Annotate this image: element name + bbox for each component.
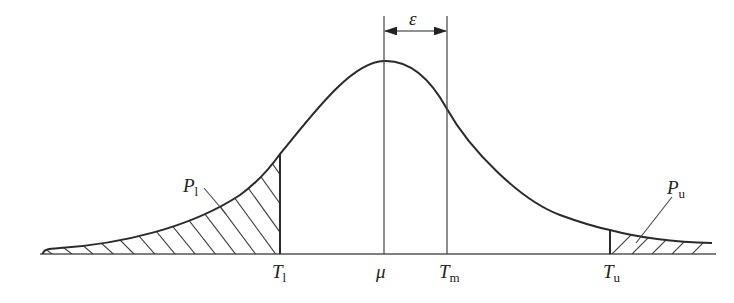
density-curve: [43, 61, 712, 254]
Tm-main: T: [439, 261, 450, 282]
epsilon-label: ε: [409, 9, 417, 28]
Pu-sub: u: [679, 186, 686, 201]
Tm-sub: m: [450, 270, 460, 285]
Pl-main: P: [183, 175, 195, 196]
Pu-leader: [636, 197, 672, 243]
Tu-main: T: [603, 261, 614, 282]
Pu-label: Pu: [667, 178, 685, 200]
Tm-label: Tm: [439, 262, 460, 284]
mu-label: μ: [376, 262, 386, 281]
Pl-label: Pl: [183, 176, 198, 198]
Tu-sub: u: [614, 270, 621, 285]
Pu-main: P: [667, 177, 679, 198]
Tu-label: Tu: [603, 262, 620, 284]
distribution-diagram: [0, 0, 734, 303]
Tl-sub: l: [283, 270, 287, 285]
Tl-label: Tl: [272, 262, 286, 284]
Tl-main: T: [272, 261, 283, 282]
Pl-sub: l: [195, 184, 199, 199]
